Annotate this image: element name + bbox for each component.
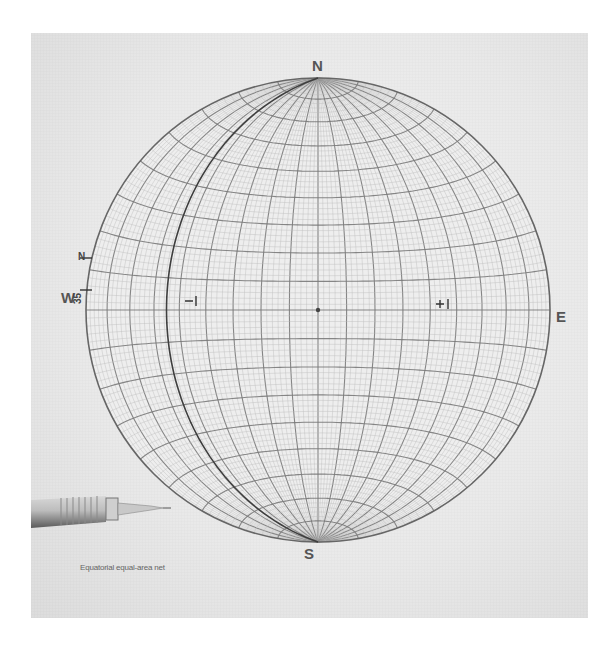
south-label: S <box>304 546 314 561</box>
azimuth-label: 35 <box>73 293 83 304</box>
east-label: E <box>556 309 566 324</box>
figure-caption: Equatorial equal-area net <box>80 563 165 572</box>
overlay-north-mark: N <box>78 252 85 262</box>
pencil-icon <box>31 494 171 528</box>
north-label: N <box>312 58 323 73</box>
